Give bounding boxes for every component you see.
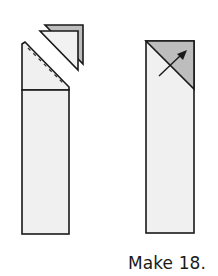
right-step-figure	[146, 41, 194, 233]
caption-text: Make 18.	[128, 252, 206, 274]
quilt-block-diagram	[0, 0, 218, 276]
rectangle-body-left	[22, 90, 69, 234]
left-step-figure	[22, 25, 83, 234]
